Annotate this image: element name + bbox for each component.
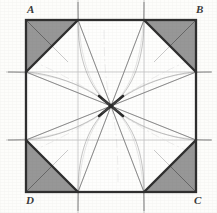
figure-canvas	[0, 0, 217, 213]
vertex-label-c: C	[194, 195, 201, 206]
vertex-label-b: B	[196, 4, 203, 15]
vertex-label-d: D	[26, 195, 34, 206]
geometry-figure: A B C D	[0, 0, 217, 213]
vertex-label-a: A	[27, 4, 34, 15]
